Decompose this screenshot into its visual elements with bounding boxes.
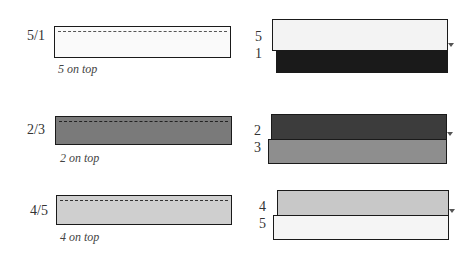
strip-3-bottom — [268, 139, 447, 164]
strip-4-top — [277, 190, 449, 217]
row-label-2-3: 2/3 — [27, 123, 45, 137]
layer-label-4: 4 — [259, 200, 266, 214]
row-label-4-5: 4/5 — [30, 204, 48, 218]
fold-line — [58, 31, 227, 32]
layer-label-1: 1 — [255, 47, 262, 61]
edge-marker — [447, 132, 453, 136]
strip-5-top — [272, 19, 448, 51]
edge-marker — [449, 209, 455, 213]
layer-label-5: 5 — [255, 30, 262, 44]
strip-5-1 — [54, 26, 231, 58]
strip-5-bottom — [273, 215, 449, 240]
strip-2-3 — [55, 116, 232, 145]
caption-2-on-top: 2 on top — [60, 152, 99, 164]
strip-2-top — [271, 114, 447, 141]
caption-4-on-top: 4 on top — [60, 231, 99, 243]
layer-label-2: 2 — [254, 124, 261, 138]
edge-marker — [448, 43, 454, 47]
layer-label-3: 3 — [254, 141, 261, 155]
strip-4-5 — [56, 195, 232, 225]
fold-line — [60, 200, 228, 201]
layer-label-5: 5 — [259, 217, 266, 231]
strip-1-bottom — [276, 48, 448, 73]
row-label-5-1: 5/1 — [27, 29, 45, 43]
caption-5-on-top: 5 on top — [58, 63, 97, 75]
fold-line — [59, 121, 228, 122]
